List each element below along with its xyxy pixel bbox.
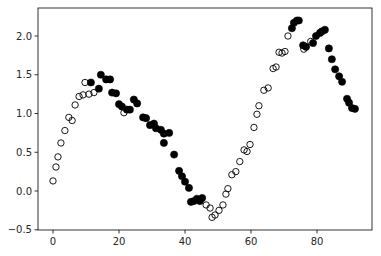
x-tick-label: 60	[245, 236, 258, 247]
data-point-filled	[309, 39, 316, 46]
data-point-open	[50, 178, 56, 184]
x-tick-label: 20	[113, 236, 126, 247]
data-point-filled	[95, 85, 102, 92]
data-point-filled	[134, 100, 141, 107]
data-point-open	[76, 93, 82, 99]
data-points	[50, 17, 359, 221]
data-point-filled	[166, 129, 173, 136]
data-point-filled	[142, 115, 149, 122]
x-tick-label: 80	[311, 236, 324, 247]
data-point-open	[220, 202, 226, 208]
data-point-filled	[171, 151, 178, 158]
x-tick-label: 40	[179, 236, 192, 247]
data-point-filled	[338, 78, 345, 85]
y-tick-label: 2.0	[16, 31, 32, 42]
data-point-filled	[160, 139, 167, 146]
data-point-open	[225, 185, 231, 191]
x-tick-label: 0	[50, 236, 56, 247]
y-tick-label: 0.5	[16, 147, 32, 158]
data-point-open	[55, 154, 61, 160]
data-point-open	[251, 124, 257, 130]
data-point-open	[256, 103, 262, 109]
data-point-open	[254, 111, 260, 117]
y-tick-label: 1.5	[16, 69, 32, 80]
y-tick-label: 0.0	[16, 186, 32, 197]
data-point-open	[285, 33, 291, 39]
data-point-open	[237, 158, 243, 164]
data-point-filled	[112, 90, 119, 97]
y-tick-label: 1.0	[16, 108, 32, 119]
data-point-filled	[321, 26, 328, 33]
data-point-open	[247, 141, 253, 147]
y-axis: −0.50.00.51.01.52.0	[8, 31, 38, 236]
data-point-open	[58, 140, 64, 146]
data-point-filled	[199, 194, 206, 201]
data-point-filled	[185, 184, 192, 191]
data-point-filled	[295, 17, 302, 24]
data-point-filled	[328, 56, 335, 63]
data-point-filled	[325, 45, 332, 52]
data-point-open	[80, 92, 86, 98]
data-point-filled	[351, 105, 358, 112]
data-point-filled	[126, 106, 133, 113]
y-tick-label: −0.5	[8, 224, 32, 235]
data-point-open	[62, 127, 68, 133]
x-axis: 020406080	[50, 230, 324, 247]
data-point-open	[53, 164, 59, 170]
data-point-filled	[332, 66, 339, 73]
data-point-filled	[87, 79, 94, 86]
data-point-filled	[181, 178, 188, 185]
data-point-filled	[303, 43, 310, 50]
data-point-filled	[106, 76, 113, 83]
data-point-open	[72, 102, 78, 108]
scatter-chart: 020406080 −0.50.00.51.01.52.0	[0, 0, 381, 256]
